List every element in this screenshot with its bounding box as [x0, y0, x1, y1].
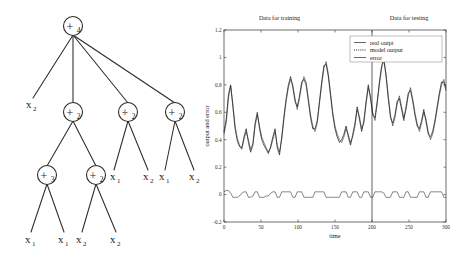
node-operator: +: [90, 169, 97, 183]
leaf-subscript: 1: [166, 177, 170, 185]
x-tick-label: 100: [294, 224, 302, 230]
node-operator: +: [122, 106, 129, 120]
leaf-variable: x: [110, 170, 116, 182]
series-model-output: [224, 59, 446, 155]
tree-edge: [114, 121, 128, 170]
node-operator: +: [67, 106, 74, 120]
tree-node-5[interactable]: + 2: [87, 166, 106, 185]
tree-leaf-2: x 2: [143, 170, 154, 185]
leaf-subscript: 1: [32, 240, 36, 248]
leaf-subscript: 2: [33, 105, 37, 113]
y-tick-label: 0: [219, 191, 222, 197]
leaf-variable: x: [110, 233, 116, 245]
tree-edge: [175, 121, 194, 170]
leaf-variable: x: [25, 233, 31, 245]
output-error-chart-panel: Data for training Data for testing 05010…: [200, 0, 457, 263]
leaf-subscript: 2: [83, 240, 87, 248]
leaf-variable: x: [143, 170, 149, 182]
series-real-output: [224, 60, 446, 152]
tree-leaf-4: x 2: [189, 170, 200, 185]
x-tick-label: 300: [442, 224, 450, 230]
annotation-data-for-training: Data for training: [259, 14, 300, 21]
expression-tree-panel: + 4 + 2 + 2 + 2 + 3: [0, 0, 210, 263]
leaf-subscript: 2: [117, 240, 121, 248]
expression-tree-svg: + 4 + 2 + 2 + 2 + 3: [0, 0, 210, 263]
node-subscript: 2: [179, 112, 183, 121]
x-tick-label: 50: [258, 224, 264, 230]
x-tick-label: 0: [223, 224, 226, 230]
node-operator: +: [169, 106, 176, 120]
tree-edge: [96, 184, 116, 232]
output-error-chart-svg: Data for training Data for testing 05010…: [200, 0, 457, 263]
tree-edge: [165, 121, 175, 170]
tree-leaf-5: x 1: [25, 233, 36, 248]
tree-node-4[interactable]: + 3: [38, 166, 57, 185]
legend-label-real-output: real outpt: [370, 39, 394, 46]
tree-leaf-0: x 2: [26, 98, 37, 113]
node-subscript: 2: [100, 175, 104, 184]
tree-node-root[interactable]: + 4: [64, 17, 83, 36]
y-tick-label: 1: [219, 54, 222, 60]
tree-leaf-3: x 1: [159, 170, 170, 185]
node-subscript: 2: [77, 112, 81, 121]
legend-label-model-output: model output: [370, 46, 403, 53]
leaf-variable: x: [76, 233, 82, 245]
tree-edge: [33, 35, 73, 98]
x-tick-label: 250: [405, 224, 413, 230]
tree-edge: [128, 121, 148, 170]
y-tick-label: 0.2: [215, 164, 222, 170]
tree-node-1[interactable]: + 2: [64, 103, 83, 122]
node-subscript: 3: [51, 175, 55, 184]
y-tick-label: 0.6: [215, 109, 222, 115]
tree-edge: [47, 121, 73, 166]
tree-node-3[interactable]: + 2: [166, 103, 185, 122]
y-tick-label: -0.2: [213, 219, 222, 225]
tree-edge: [73, 35, 128, 103]
tree-edges: [31, 35, 194, 232]
x-tick-label: 200: [368, 224, 376, 230]
leaf-variable: x: [159, 170, 165, 182]
y-tick-label: 1.2: [215, 27, 222, 33]
node-subscript: 4: [77, 26, 81, 35]
tree-edge: [47, 184, 64, 232]
y-tick-label: 0.8: [215, 82, 222, 88]
leaf-variable: x: [58, 233, 64, 245]
node-operator: +: [67, 20, 74, 34]
leaf-subscript: 2: [150, 177, 154, 185]
y-axis-label: output and error: [203, 105, 210, 147]
tree-leaf-1: x 1: [110, 170, 121, 185]
tree-edge: [73, 121, 96, 166]
leaf-variable: x: [26, 98, 32, 110]
leaf-variable: x: [189, 170, 195, 182]
x-axis-label: time: [329, 232, 341, 239]
annotation-data-for-testing: Data for testing: [390, 14, 429, 21]
y-tick-label: 0.4: [215, 137, 222, 143]
node-operator: +: [41, 169, 48, 183]
node-subscript: 2: [132, 112, 136, 121]
legend-label-error: error: [370, 54, 382, 61]
tree-node-2[interactable]: + 2: [119, 103, 138, 122]
tree-leaf-8: x 2: [110, 233, 121, 248]
figure-root: + 4 + 2 + 2 + 2 + 3: [0, 0, 457, 263]
tree-leaf-6: x 1: [58, 233, 69, 248]
x-tick-label: 150: [331, 224, 339, 230]
tree-edge: [31, 184, 47, 232]
chart-legend: real outpt model output error: [350, 36, 442, 62]
tree-edge: [73, 35, 175, 103]
leaf-subscript: 1: [65, 240, 69, 248]
tree-edge: [82, 184, 96, 232]
tree-leaf-7: x 2: [76, 233, 87, 248]
leaf-subscript: 1: [117, 177, 121, 185]
series-error: [224, 190, 446, 197]
